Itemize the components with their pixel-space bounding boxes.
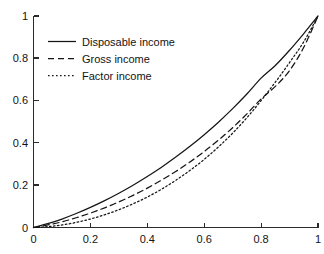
legend-label-factor-income: Factor income — [82, 70, 152, 82]
x-axis-tick-labels: 0 0.2 0.4 0.6 0.8 1 — [30, 233, 321, 245]
x-tick-label: 0 — [30, 233, 36, 245]
y-axis-tick-labels: 0 0.2 0.4 0.6 0.8 1 — [13, 10, 28, 234]
y-tick-label: 0.2 — [13, 179, 28, 191]
chart-canvas: 0 0.2 0.4 0.6 0.8 1 0 0.2 0.4 0.6 0.8 1 … — [0, 0, 324, 254]
x-axis-ticks — [34, 223, 319, 228]
y-tick-label: 0.6 — [13, 94, 28, 106]
data-series-group — [34, 16, 319, 228]
x-tick-label: 0.8 — [253, 233, 268, 245]
x-tick-label: 1 — [315, 233, 321, 245]
x-tick-label: 0.6 — [197, 233, 212, 245]
x-tick-label: 0.2 — [83, 233, 98, 245]
y-tick-label: 1 — [22, 10, 28, 22]
lorenz-curve-figure: 0 0.2 0.4 0.6 0.8 1 0 0.2 0.4 0.6 0.8 1 … — [0, 0, 324, 254]
chart-legend: Disposable income Gross income Factor in… — [48, 36, 175, 82]
y-tick-label: 0.8 — [13, 52, 28, 64]
legend-label-disposable-income: Disposable income — [82, 36, 175, 48]
series-line-disposable-income — [34, 16, 319, 228]
legend-label-gross-income: Gross income — [82, 53, 150, 65]
series-line-factor-income — [34, 16, 319, 228]
y-tick-label: 0 — [22, 222, 28, 234]
x-tick-label: 0.4 — [140, 233, 155, 245]
y-axis-ticks — [34, 16, 39, 228]
series-line-gross-income — [34, 16, 319, 228]
y-tick-label: 0.4 — [13, 137, 28, 149]
